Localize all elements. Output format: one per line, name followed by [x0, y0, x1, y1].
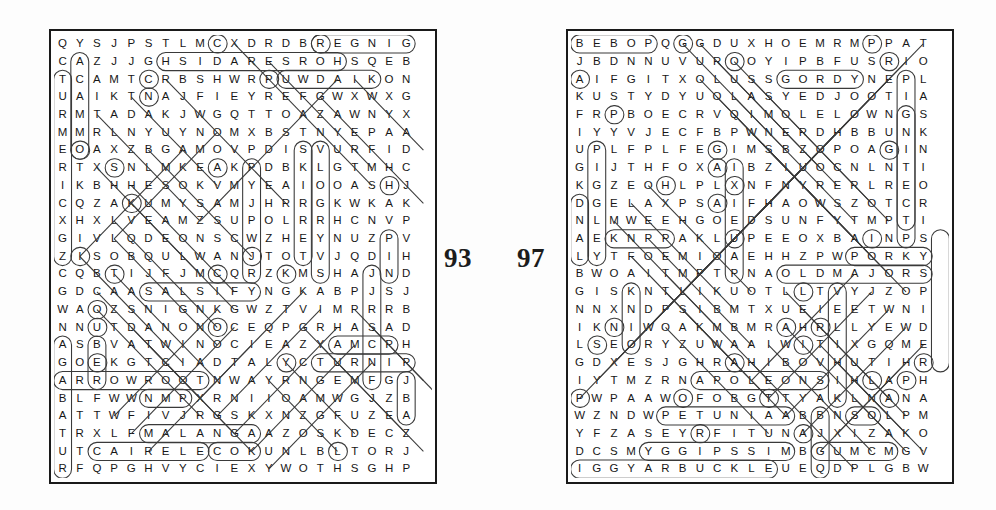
grid-cell: V: [674, 53, 691, 71]
grid-cell: N: [897, 389, 914, 407]
grid-cell: G: [691, 35, 708, 53]
grid-cell: I: [915, 301, 932, 319]
grid-cell: V: [209, 177, 226, 195]
grid-cell: O: [623, 35, 640, 53]
grid-cell: D: [571, 194, 588, 212]
grid-cell: U: [157, 248, 174, 266]
word-search-grid-right[interactable]: BEBOPQGGDUXHOEMRMPPATJBDNNUVUROOYIPBFUSR…: [566, 29, 954, 484]
grid-cell: [932, 159, 949, 177]
grid-cell: [932, 372, 949, 390]
grid-cell: N: [54, 319, 71, 337]
grid-cell: N: [363, 106, 380, 124]
grid-cell: B: [588, 53, 605, 71]
grid-cell: E: [157, 230, 174, 248]
puzzle-page: QYSJPSTLMCXDRDBREGNIGCAZJJGHSIDARESROHSQ…: [0, 0, 996, 510]
grid-cell: R: [209, 389, 226, 407]
grid-cell: D: [571, 443, 588, 461]
grid-cell: Z: [380, 389, 397, 407]
grid-cell: C: [226, 230, 243, 248]
grid-cell: E: [640, 212, 657, 230]
grid-cell: A: [880, 372, 897, 390]
grid-cell: U: [140, 194, 157, 212]
grid-cell: G: [398, 88, 415, 106]
grid-cell: [932, 443, 949, 461]
grid-cell: M: [71, 106, 88, 124]
grid-cell: B: [897, 460, 914, 478]
grid-cell: N: [674, 372, 691, 390]
grid-cell: P: [174, 389, 191, 407]
grid-cell: T: [191, 372, 208, 390]
grid-cell: F: [571, 106, 588, 124]
grid-cell: W: [640, 319, 657, 337]
grid-cell: O: [708, 248, 725, 266]
grid-cell: C: [398, 159, 415, 177]
grid-cell: G: [209, 407, 226, 425]
grid-cell: V: [915, 443, 932, 461]
grid-cell: Q: [260, 319, 277, 337]
grid-cell: N: [209, 372, 226, 390]
grid-cell: N: [329, 230, 346, 248]
grid-cell: E: [363, 425, 380, 443]
grid-cell: R: [708, 53, 725, 71]
grid-cell: J: [123, 53, 140, 71]
grid-cell: Y: [846, 70, 863, 88]
grid-cell: V: [88, 230, 105, 248]
grid-cell: A: [157, 88, 174, 106]
grid-cell: H: [674, 212, 691, 230]
grid-cell: G: [863, 336, 880, 354]
grid-cell: R: [657, 372, 674, 390]
grid-cell: M: [329, 301, 346, 319]
grid-cell: V: [157, 407, 174, 425]
grid-cell: Y: [794, 389, 811, 407]
grid-cell: M: [880, 443, 897, 461]
grid-cell: T: [54, 70, 71, 88]
grid-cell: M: [71, 124, 88, 142]
grid-cell: D: [588, 354, 605, 372]
grid-cell: J: [398, 372, 415, 390]
grid-cell: W: [226, 70, 243, 88]
grid-cell: D: [829, 70, 846, 88]
grid-cell: T: [226, 354, 243, 372]
grid-cell: O: [640, 177, 657, 195]
grid-cell: K: [106, 88, 123, 106]
grid-cell: S: [295, 141, 312, 159]
grid-cell: [415, 389, 432, 407]
grid-cell: Z: [674, 336, 691, 354]
grid-cell: U: [88, 319, 105, 337]
grid-cell: T: [123, 70, 140, 88]
grid-cell: K: [605, 230, 622, 248]
grid-cell: I: [260, 389, 277, 407]
grid-cell: A: [243, 372, 260, 390]
grid-cell: J: [243, 248, 260, 266]
word-search-grid-left[interactable]: QYSJPSTLMCXDRDBREGNIGCAZJJGHSIDARESROHSQ…: [49, 29, 437, 484]
grid-cell: M: [363, 159, 380, 177]
grid-cell: W: [106, 407, 123, 425]
grid-cell: B: [708, 301, 725, 319]
grid-cell: W: [880, 301, 897, 319]
grid-cell: T: [657, 265, 674, 283]
grid-cell: R: [829, 35, 846, 53]
grid-cell: J: [174, 106, 191, 124]
grid-cell: T: [123, 88, 140, 106]
grid-cell: L: [708, 177, 725, 195]
grid-cell: B: [863, 124, 880, 142]
grid-cell: S: [743, 443, 760, 461]
grid-cell: O: [777, 35, 794, 53]
grid-cell: A: [54, 407, 71, 425]
grid-cell: [415, 265, 432, 283]
grid-cell: S: [277, 124, 294, 142]
grid-cell: [415, 248, 432, 266]
grid-cell: X: [380, 88, 397, 106]
grid-cell: E: [260, 336, 277, 354]
grid-cell: G: [329, 159, 346, 177]
grid-cell: A: [623, 265, 640, 283]
grid-cell: G: [346, 389, 363, 407]
grid-cell: S: [277, 53, 294, 71]
grid-cell: O: [174, 177, 191, 195]
grid-cell: A: [209, 159, 226, 177]
grid-cell: Q: [71, 265, 88, 283]
grid-cell: Q: [726, 106, 743, 124]
grid-cell: U: [329, 354, 346, 372]
grid-cell: E: [588, 230, 605, 248]
grid-cell: O: [88, 301, 105, 319]
